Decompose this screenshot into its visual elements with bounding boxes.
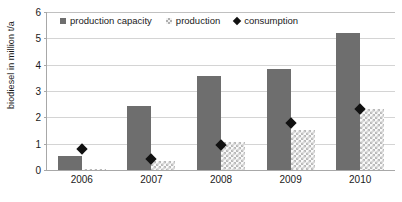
y-tick-label: 6 <box>19 7 41 18</box>
bar-group <box>197 12 245 170</box>
x-tick-label: 2008 <box>191 174 251 185</box>
legend-label: production capacity <box>70 15 152 26</box>
y-tick-label: 2 <box>19 112 41 123</box>
y-tick-mark <box>44 144 47 145</box>
marker-consumption <box>76 144 87 155</box>
y-tick-mark <box>44 38 47 39</box>
x-tick-label: 2010 <box>330 174 390 185</box>
x-tick-label: 2006 <box>52 174 112 185</box>
y-tick-label: 5 <box>19 33 41 44</box>
bar-production <box>291 130 315 170</box>
plot-area: 0123456 20062007200820092010 <box>46 12 395 171</box>
legend-item: production capacity <box>60 15 152 26</box>
y-tick-mark <box>44 117 47 118</box>
legend-item: consumption <box>234 15 298 26</box>
y-tick-label: 3 <box>19 86 41 97</box>
bar-production <box>360 109 384 170</box>
bar-group <box>58 12 106 170</box>
x-tick-label: 2009 <box>261 174 321 185</box>
y-tick-mark <box>44 65 47 66</box>
y-tick-label: 4 <box>19 59 41 70</box>
bar-chart: biodiesel in million t/a 0123456 2006200… <box>0 0 402 202</box>
bar-production-capacity <box>58 156 82 170</box>
checkered-swatch-icon <box>166 18 172 24</box>
bar-production <box>151 161 175 170</box>
bar-production <box>82 169 106 171</box>
legend-label: consumption <box>244 15 298 26</box>
bar-production-capacity <box>336 33 360 170</box>
legend-label: production <box>176 15 220 26</box>
bar-group <box>336 12 384 170</box>
legend-item: production <box>166 15 220 26</box>
bar-group <box>267 12 315 170</box>
chart-legend: production capacityproductionconsumption <box>60 15 298 26</box>
x-tick-label: 2007 <box>121 174 181 185</box>
square-swatch-icon <box>60 18 66 24</box>
y-tick-mark <box>44 12 47 13</box>
y-axis-title: biodiesel in million t/a <box>6 0 16 140</box>
bar-production-capacity <box>197 76 221 170</box>
y-tick-label: 1 <box>19 138 41 149</box>
y-tick-mark <box>44 91 47 92</box>
y-tick-mark <box>44 170 47 171</box>
y-tick-label: 0 <box>19 165 41 176</box>
diamond-swatch-icon <box>233 16 241 24</box>
bar-group <box>127 12 175 170</box>
